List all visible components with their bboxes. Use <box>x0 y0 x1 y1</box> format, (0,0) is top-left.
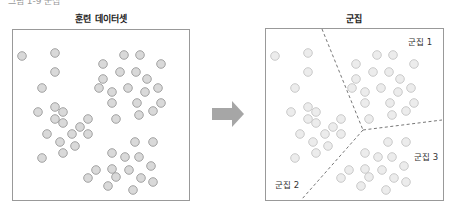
clustered-point <box>402 107 411 116</box>
clustered-point <box>321 130 330 139</box>
clustered-point <box>304 49 313 58</box>
clustered-point <box>390 174 399 183</box>
data-point <box>84 174 93 183</box>
data-point <box>136 51 145 60</box>
data-point <box>99 60 108 69</box>
data-point <box>149 107 158 116</box>
clustered-point <box>329 123 338 132</box>
training-points <box>18 49 166 195</box>
data-point <box>141 88 150 97</box>
clustered-point <box>337 174 346 183</box>
data-point <box>157 60 166 69</box>
clustered-point <box>271 52 280 61</box>
right-arrow-icon <box>212 101 244 127</box>
clustered-point <box>385 68 394 77</box>
clustered-point <box>312 149 321 158</box>
clustered-point <box>361 149 370 158</box>
clustered-point <box>352 60 361 69</box>
data-point <box>135 111 144 120</box>
clustered-point <box>291 84 300 93</box>
clustered-point <box>352 75 361 84</box>
cluster-1-label: 군집 1 <box>408 35 432 47</box>
clustered-point <box>410 99 419 108</box>
data-point <box>51 103 60 112</box>
data-point <box>120 51 129 60</box>
clustered-point <box>304 103 313 112</box>
data-point <box>116 68 125 77</box>
data-point <box>108 99 117 108</box>
clustered-point <box>296 130 305 139</box>
data-point <box>112 173 121 182</box>
clustered-points <box>271 49 419 195</box>
clustered-point <box>312 108 321 117</box>
clustered-point <box>287 108 296 117</box>
data-point <box>34 108 43 117</box>
clustered-point <box>337 115 346 124</box>
data-point <box>131 138 140 147</box>
data-point <box>43 130 52 139</box>
cluster-2-label: 군집 2 <box>275 178 299 190</box>
data-point <box>99 75 108 84</box>
data-point <box>137 174 146 183</box>
clustered-point <box>365 115 374 124</box>
data-point <box>51 68 60 77</box>
clustered-point <box>345 166 354 175</box>
clustered-point <box>365 173 374 182</box>
clustered-point <box>378 166 387 175</box>
clustered-point <box>357 182 366 191</box>
data-point <box>132 68 141 77</box>
diagram-canvas <box>0 0 454 210</box>
data-point <box>108 88 117 97</box>
clustered-point <box>369 68 378 77</box>
data-point <box>104 182 113 191</box>
data-point <box>59 149 68 158</box>
clustered-point <box>291 154 300 163</box>
clustered-point <box>396 75 405 84</box>
data-point <box>56 138 65 147</box>
clustered-point <box>402 138 411 147</box>
clustered-point <box>312 119 321 128</box>
data-point <box>84 115 93 124</box>
cluster-3-label: 군집 3 <box>414 150 438 162</box>
data-point <box>147 162 156 171</box>
data-point <box>133 99 142 108</box>
data-point <box>18 52 27 61</box>
data-point <box>71 142 80 151</box>
data-point <box>95 84 104 93</box>
clustered-point <box>304 68 313 77</box>
data-point <box>157 99 166 108</box>
clustered-point <box>309 138 318 147</box>
data-point <box>38 154 47 163</box>
clustered-point <box>402 178 411 187</box>
data-point <box>51 49 60 58</box>
clustered-point <box>361 165 370 174</box>
clustered-point <box>410 60 419 69</box>
clustered-point <box>407 84 416 93</box>
clustered-point <box>384 138 393 147</box>
data-point <box>92 166 101 175</box>
clustered-point <box>361 99 370 108</box>
clustered-point <box>382 186 391 195</box>
data-point <box>135 153 144 162</box>
data-point <box>149 138 158 147</box>
data-point <box>51 115 60 124</box>
clustered-point <box>394 88 403 97</box>
clustered-point <box>348 84 357 93</box>
clustered-point <box>386 99 395 108</box>
data-point <box>108 165 117 174</box>
clustered-point <box>374 153 383 162</box>
data-point <box>76 123 85 132</box>
data-point <box>108 149 117 158</box>
data-point <box>143 75 152 84</box>
clustered-point <box>361 88 370 97</box>
clustered-point <box>377 84 386 93</box>
data-point <box>59 119 68 128</box>
clustered-point <box>400 162 409 171</box>
data-point <box>38 84 47 93</box>
data-point <box>124 84 133 93</box>
clustered-point <box>304 115 313 124</box>
clustered-point <box>388 153 397 162</box>
clustered-point <box>337 130 346 139</box>
clustered-point <box>324 142 333 151</box>
data-point <box>121 153 130 162</box>
